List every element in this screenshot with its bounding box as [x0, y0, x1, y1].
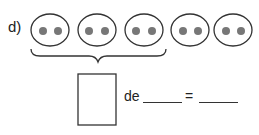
- group-ellipse-3: [125, 14, 163, 46]
- group-ellipse-1: [31, 14, 69, 46]
- answer-box: [78, 74, 116, 125]
- curly-brace: [31, 49, 166, 62]
- groups-diagram: [0, 0, 259, 135]
- group-ellipse-5: [214, 14, 252, 46]
- group-ellipse-2: [78, 14, 116, 46]
- equals-sign: =: [185, 88, 193, 104]
- group-ellipse-4: [171, 14, 209, 46]
- de-word: de: [124, 88, 140, 104]
- blank-2[interactable]: [199, 102, 238, 103]
- blank-1[interactable]: [143, 102, 182, 103]
